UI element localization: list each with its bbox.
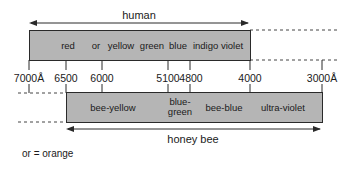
- tick-6500: 6500: [54, 72, 77, 84]
- tick-5100: 5100: [156, 72, 179, 84]
- arrow-left-icon: [29, 20, 37, 26]
- bee-title: honey bee: [167, 133, 218, 145]
- band-yellow: yellow: [108, 41, 134, 51]
- tick-7000: 7000Å: [14, 72, 44, 84]
- band-orange: or: [92, 41, 100, 51]
- band-bee-yellow: bee-yellow: [90, 103, 135, 113]
- arrow-left-icon: [66, 126, 74, 132]
- band-green: green: [140, 41, 164, 51]
- band-blue-green: blue- green: [168, 97, 192, 117]
- tick-6000: 6000: [90, 72, 113, 84]
- band-ultra-violet: ultra-violet: [261, 103, 305, 113]
- band-red: red: [61, 41, 75, 51]
- human-title: human: [122, 9, 156, 21]
- diagram-lines: [0, 0, 348, 171]
- band-blue: blue: [169, 41, 187, 51]
- tick-4800: 4800: [179, 72, 202, 84]
- band-bee-blue: bee-blue: [206, 103, 243, 113]
- tick-4000: 4000: [238, 72, 261, 84]
- tick-3000: 3000Å: [307, 72, 337, 84]
- band-indigo-violet: indigo violet: [193, 41, 243, 51]
- footnote: or = orange: [22, 148, 73, 159]
